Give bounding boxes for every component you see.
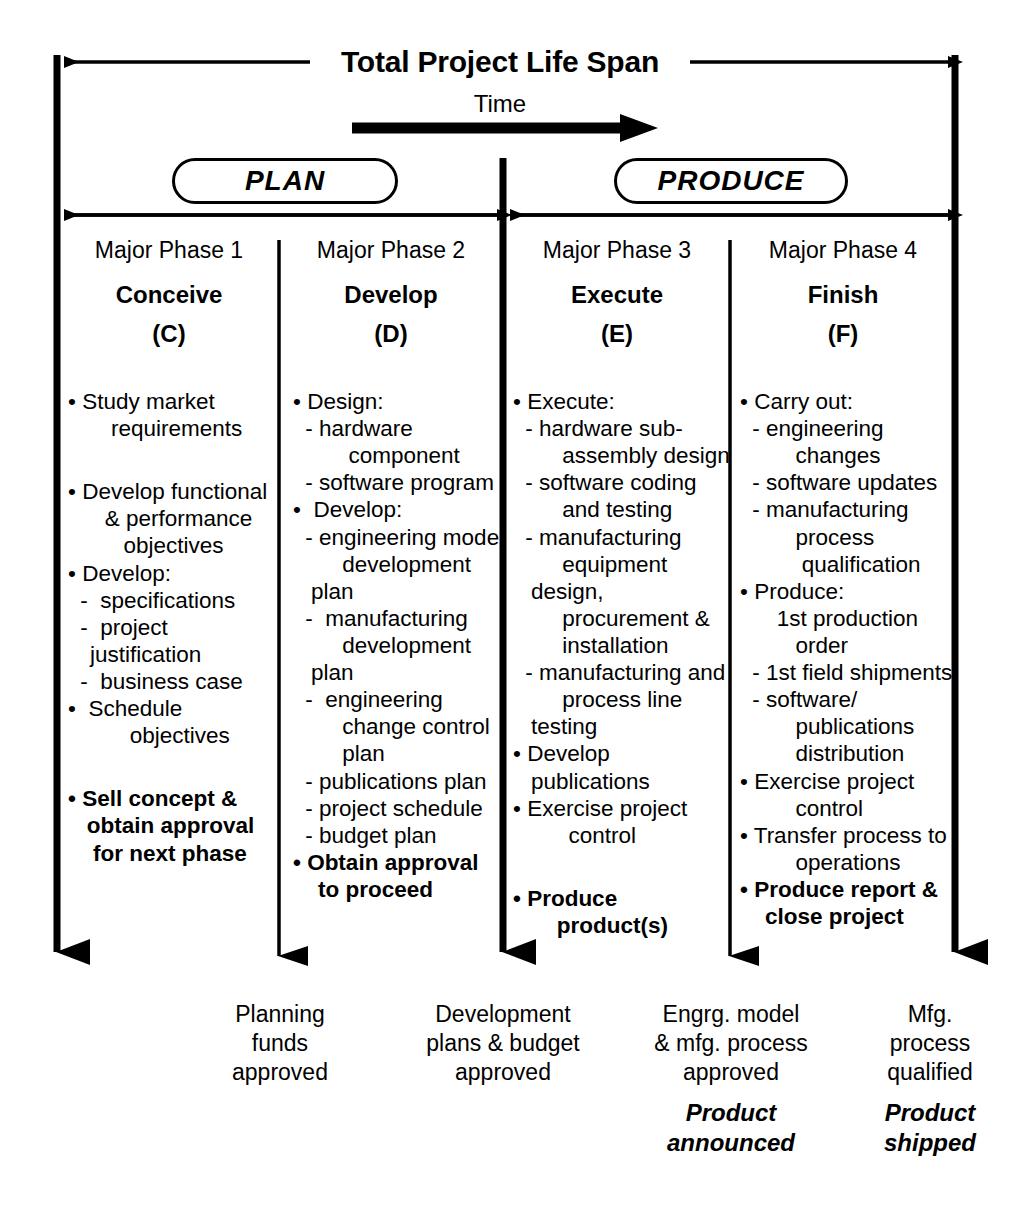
column-header-phase-4: Major Phase 4 Finish (F)	[734, 237, 952, 348]
task-line: control	[513, 822, 731, 849]
task-line: and testing	[513, 496, 731, 523]
task-line: - engineering	[740, 415, 956, 442]
task-line: • Obtain approval	[293, 849, 505, 876]
task-line: • Exercise project	[740, 768, 956, 795]
phase-2-task-list: • Design: - hardware component - softwar…	[293, 388, 505, 903]
task-line: - project justification	[68, 614, 278, 668]
task-line: control	[740, 795, 956, 822]
column-header-phase-1: Major Phase 1 Conceive (C)	[60, 237, 278, 348]
phase-1-major: Major Phase 1	[60, 237, 278, 264]
task-line: - manufacturing and	[513, 659, 731, 686]
phase-1-task-list: • Study market requirements• Develop fun…	[68, 388, 278, 867]
task-line: - software coding	[513, 469, 731, 496]
task-line: requirements	[68, 415, 278, 442]
phase-1-name: Conceive	[60, 281, 278, 309]
task-line: assembly design	[513, 442, 731, 469]
task-line: close project	[740, 903, 956, 930]
task-line: development plan	[293, 551, 505, 605]
task-line: • Sell concept &	[68, 785, 278, 812]
task-line: procurement &	[513, 605, 731, 632]
task-line	[68, 462, 278, 478]
task-line: - manufacturing	[293, 605, 505, 632]
task-line: • Transfer process to	[740, 822, 956, 849]
band-plan-label: PLAN	[245, 165, 325, 197]
task-line: • Study market	[68, 388, 278, 415]
task-line: 1st production	[740, 605, 956, 632]
phase-3-name: Execute	[508, 281, 726, 309]
task-line: - manufacturing	[740, 496, 956, 523]
task-line: process	[740, 524, 956, 551]
band-produce-label: PRODUCE	[657, 165, 804, 197]
diagram-title: Total Project Life Span	[300, 45, 700, 80]
task-line: development plan	[293, 632, 505, 686]
task-line: objectives	[68, 532, 278, 559]
task-line: installation	[513, 632, 731, 659]
task-line: • Exercise project	[513, 795, 731, 822]
task-line: product(s)	[513, 912, 731, 939]
task-line: • Produce:	[740, 578, 956, 605]
phase-2-major: Major Phase 2	[282, 237, 500, 264]
column-header-phase-2: Major Phase 2 Develop (D)	[282, 237, 500, 348]
task-line: • Carry out:	[740, 388, 956, 415]
time-axis-label: Time	[400, 90, 600, 118]
outcome-emphasis-phase-4: Product shipped	[860, 1098, 1000, 1158]
phase-2-code: (D)	[282, 320, 500, 348]
task-line: - software/	[740, 686, 956, 713]
task-line: publications	[740, 713, 956, 740]
task-line: component	[293, 442, 505, 469]
task-line: change control	[293, 713, 505, 740]
task-line: order	[740, 632, 956, 659]
phase-1-code: (C)	[60, 320, 278, 348]
task-line: • Produce report &	[740, 876, 956, 903]
task-line: equipment design,	[513, 551, 731, 605]
phase-4-code: (F)	[734, 320, 952, 348]
task-line: • Schedule	[68, 695, 278, 722]
outcome-phase-4: Mfg. process qualified	[860, 1000, 1000, 1087]
task-line: - hardware	[293, 415, 505, 442]
task-line: - publications plan	[293, 768, 505, 795]
task-line: - business case	[68, 668, 278, 695]
phase-4-major: Major Phase 4	[734, 237, 952, 264]
outcome-phase-1: Planning funds approved	[180, 1000, 380, 1087]
task-line: - software program	[293, 469, 505, 496]
phase-4-name: Finish	[734, 281, 952, 309]
task-line: - specifications	[68, 587, 278, 614]
band-produce: PRODUCE	[614, 158, 848, 204]
task-line: • Develop:	[68, 560, 278, 587]
phase-4-task-list: • Carry out: - engineering changes - sof…	[740, 388, 956, 930]
task-line: - 1st field shipments	[740, 659, 956, 686]
task-line: distribution	[740, 740, 956, 767]
task-line: process line testing	[513, 686, 731, 740]
column-header-phase-3: Major Phase 3 Execute (E)	[508, 237, 726, 348]
task-line: - project schedule	[293, 795, 505, 822]
task-line: • Develop publications	[513, 740, 731, 794]
task-line: • Develop:	[293, 496, 505, 523]
outcome-emphasis-phase-3: Product announced	[628, 1098, 834, 1158]
task-line	[513, 869, 731, 885]
task-line: for next phase	[68, 840, 278, 867]
task-line: plan	[293, 740, 505, 767]
task-line: & performance	[68, 505, 278, 532]
task-line: qualification	[740, 551, 956, 578]
phase-3-task-list: • Execute: - hardware sub- assembly desi…	[513, 388, 731, 939]
phase-2-name: Develop	[282, 281, 500, 309]
task-line	[68, 769, 278, 785]
outcome-phase-3: Engrg. model & mfg. process approved	[628, 1000, 834, 1087]
outcome-phase-2: Development plans & budget approved	[392, 1000, 614, 1087]
task-line: • Execute:	[513, 388, 731, 415]
task-line: • Develop functional	[68, 478, 278, 505]
band-plan: PLAN	[172, 158, 398, 204]
task-line: - manufacturing	[513, 524, 731, 551]
task-line: - budget plan	[293, 822, 505, 849]
phase-3-major: Major Phase 3	[508, 237, 726, 264]
task-line: changes	[740, 442, 956, 469]
phase-3-code: (E)	[508, 320, 726, 348]
task-line: • Design:	[293, 388, 505, 415]
task-line: - engineering	[293, 686, 505, 713]
task-line: objectives	[68, 722, 278, 749]
task-line: operations	[740, 849, 956, 876]
task-line: - engineering model	[293, 524, 505, 551]
task-line: - hardware sub-	[513, 415, 731, 442]
task-line: to proceed	[293, 876, 505, 903]
task-line: • Produce	[513, 885, 731, 912]
